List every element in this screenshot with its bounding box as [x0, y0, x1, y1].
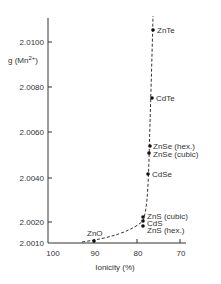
- y-tick-label: 2.0010: [20, 239, 45, 248]
- point-label: CdTe: [156, 94, 175, 103]
- x-ticks: [94, 239, 180, 243]
- data-point: [151, 28, 155, 32]
- data-point: [141, 215, 145, 219]
- data-point: [141, 224, 145, 228]
- y-tick-label: 2.0020: [20, 218, 45, 227]
- chart: 2.0100 2.0080 2.0060 2.0040 2.0020 2.001…: [0, 0, 221, 284]
- point-labels: ZnTe CdTe ZnSe (hex.) ZnSe (cubic) CdSe …: [87, 26, 199, 238]
- data-point: [147, 151, 151, 155]
- x-tick-labels: 100 90 80 70: [46, 249, 186, 258]
- y-tick-labels: 2.0100 2.0080 2.0060 2.0040 2.0020 2.001…: [20, 38, 45, 248]
- y-axis-title: g (Mn2+): [8, 55, 38, 65]
- data-point: [141, 219, 145, 223]
- point-label: CdSe: [152, 170, 173, 179]
- point-label: ZnTe: [157, 26, 175, 35]
- data-point: [150, 96, 154, 100]
- y-tick-label: 2.0040: [20, 174, 45, 183]
- point-label: ZnO: [87, 229, 103, 238]
- x-tick-label: 90: [91, 249, 100, 258]
- y-tick-label: 2.0100: [20, 38, 45, 47]
- data-point: [92, 239, 96, 243]
- trend-line: [82, 16, 153, 242]
- y-ticks: [48, 42, 52, 222]
- x-axis-title: Ionicity (%): [95, 263, 135, 272]
- data-point: [146, 172, 150, 176]
- y-tick-label: 2.0080: [20, 83, 45, 92]
- data-point: [148, 144, 152, 148]
- x-tick-label: 100: [46, 249, 60, 258]
- point-label: ZnSe (cubic): [153, 150, 199, 159]
- x-tick-label: 80: [134, 249, 143, 258]
- y-tick-label: 2.0060: [20, 128, 45, 137]
- point-label: ZnS (hex.): [147, 226, 185, 235]
- x-tick-label: 70: [177, 249, 186, 258]
